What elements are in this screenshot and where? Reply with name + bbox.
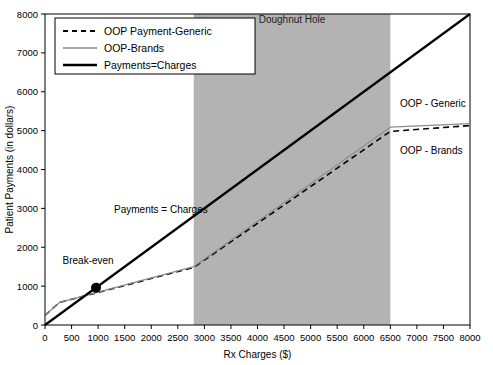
x-tick-label: 6500 <box>380 332 401 343</box>
x-tick-label: 8000 <box>459 332 480 343</box>
x-tick-label: 500 <box>64 332 80 343</box>
y-tick-label: 7000 <box>17 47 38 58</box>
x-tick-label: 3000 <box>194 332 215 343</box>
x-tick-label: 2000 <box>141 332 162 343</box>
legend-label-1: OOP-Brands <box>104 42 164 54</box>
y-tick-label: 6000 <box>17 86 38 97</box>
y-tick-label: 4000 <box>17 164 38 175</box>
x-tick-label: 4500 <box>273 332 294 343</box>
break-even-marker <box>91 283 101 293</box>
y-tick-label: 0 <box>33 320 38 331</box>
x-tick-label: 2500 <box>167 332 188 343</box>
y-tick-label: 3000 <box>17 203 38 214</box>
legend-label-0: OOP Payment-Generic <box>104 25 212 37</box>
legend-label-2: Payments=Charges <box>104 59 197 71</box>
x-tick-label: 6000 <box>353 332 374 343</box>
x-tick-label: 4000 <box>247 332 268 343</box>
x-tick-label: 7500 <box>433 332 454 343</box>
y-tick-label: 8000 <box>17 9 38 20</box>
annotation-oop-brands: OOP - Brands <box>400 145 463 156</box>
doughnut-hole-label: Doughnut Hole <box>259 14 326 25</box>
x-tick-label: 1000 <box>88 332 109 343</box>
annotation-payments-charges: Payments = Charges <box>114 204 208 215</box>
y-axis-label: Patient Payments (in dollars) <box>4 106 15 234</box>
annotation-oop-generic: OOP - Generic <box>400 98 466 109</box>
chart-canvas: Doughnut Hole050010001500200025003000350… <box>0 0 493 365</box>
y-tick-label: 1000 <box>17 281 38 292</box>
y-tick-label: 5000 <box>17 125 38 136</box>
x-tick-label: 7000 <box>406 332 427 343</box>
x-tick-label: 5500 <box>327 332 348 343</box>
x-tick-label: 3500 <box>220 332 241 343</box>
annotation-break-even: Break-even <box>63 255 114 266</box>
y-tick-label: 2000 <box>17 242 38 253</box>
x-axis-label: Rx Charges ($) <box>224 349 292 360</box>
x-tick-label: 5000 <box>300 332 321 343</box>
x-tick-label: 1500 <box>114 332 135 343</box>
chart-figure: Doughnut Hole050010001500200025003000350… <box>0 0 493 365</box>
x-tick-label: 0 <box>42 332 47 343</box>
